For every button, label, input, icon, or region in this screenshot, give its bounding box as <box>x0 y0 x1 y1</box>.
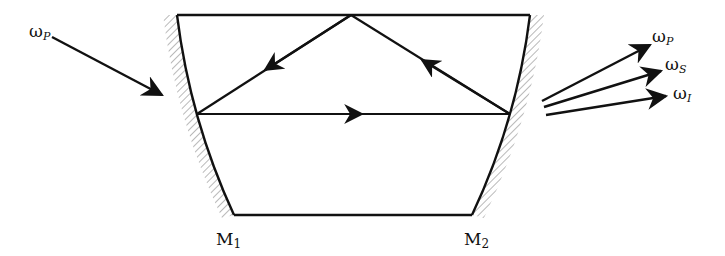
mirror-right-hatch <box>472 15 544 218</box>
diagram-canvas: ωP ωP ωS ωI M1 M2 <box>0 0 725 256</box>
cavity-diagram <box>0 0 725 256</box>
label-output-signal: ωS <box>665 56 686 75</box>
label-output-idler: ωI <box>673 85 691 104</box>
label-pump-in: ωP <box>29 23 50 42</box>
pump-input-arrow <box>52 37 162 95</box>
label-output-pump: ωP <box>652 28 673 47</box>
output-signal-arrow <box>544 71 661 107</box>
label-mirror-m1: M1 <box>216 231 241 250</box>
output-pump-arrow <box>542 45 650 101</box>
label-mirror-m2: M2 <box>464 231 489 250</box>
output-idler-arrow <box>546 96 666 115</box>
